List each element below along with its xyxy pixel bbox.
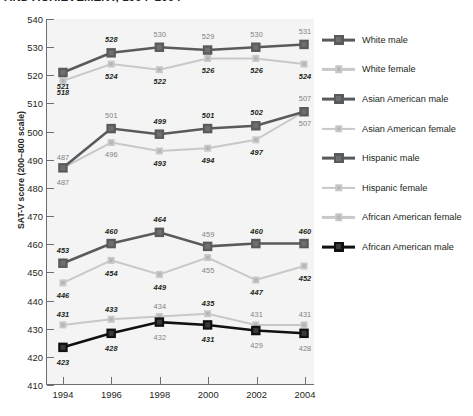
legend-item-label: White female [362, 64, 416, 74]
data-point-marker [204, 55, 211, 62]
data-point-value: 454 [105, 268, 118, 277]
data-point-value: 494 [202, 156, 215, 165]
data-point-value: 431 [57, 310, 70, 319]
legend-swatch-icon [322, 181, 355, 195]
data-point-marker [106, 124, 115, 133]
legend-item-label: White male [362, 35, 408, 45]
data-point-marker [156, 148, 163, 155]
legend-item-african-american-female[interactable]: African American female [322, 203, 472, 233]
data-point-marker [58, 343, 67, 352]
legend-swatch-icon [322, 122, 355, 136]
data-point-marker [299, 329, 308, 338]
data-point-marker [299, 107, 308, 116]
legend-item-label: Asian American female [362, 124, 456, 134]
series-lines [47, 19, 314, 384]
data-point-marker [301, 321, 308, 328]
data-point-value: 501 [105, 111, 118, 120]
data-point-marker [252, 136, 259, 143]
x-axis-label: 2004 [295, 389, 316, 400]
series-line [63, 258, 304, 283]
plot-area: 4104204304404504604704804905005105205305… [46, 19, 314, 385]
data-point-value: 518 [57, 88, 70, 97]
data-point-marker [108, 61, 115, 68]
series-line [63, 58, 304, 80]
data-point-value: 531 [299, 26, 312, 35]
data-point-value: 434 [153, 301, 166, 310]
data-point-value: 496 [105, 150, 118, 159]
chart-figure: AND ACHIEVEMENT, 1994–2004 SAT-V score (… [0, 0, 473, 416]
data-point-value: 529 [202, 32, 215, 41]
data-point-marker [59, 321, 66, 328]
data-point-marker [252, 55, 259, 62]
y-axis-label: 470 [27, 211, 43, 222]
data-point-value: 446 [57, 291, 70, 300]
data-point-value: 530 [153, 29, 166, 38]
data-point-marker [106, 48, 115, 57]
data-point-value: 530 [250, 29, 263, 38]
data-point-marker [58, 68, 67, 77]
data-point-value: 453 [57, 246, 70, 255]
data-point-marker [299, 239, 308, 248]
data-point-value: 464 [153, 215, 166, 224]
legend-item-label: African American female [362, 212, 462, 222]
legend-item-hispanic-female[interactable]: Hispanic female [322, 173, 472, 203]
data-point-value: 428 [299, 343, 312, 352]
data-point-value: 487 [57, 152, 70, 161]
legend-swatch-icon [322, 210, 355, 224]
legend-item-african-american-male[interactable]: African American male [322, 232, 472, 262]
data-point-value: 497 [250, 147, 263, 156]
data-point-value: 507 [299, 94, 312, 103]
data-point-marker [251, 42, 260, 51]
data-point-marker [108, 139, 115, 146]
y-axis-label: 460 [27, 239, 43, 250]
data-point-marker [58, 163, 67, 172]
data-point-marker [156, 66, 163, 73]
x-axis-label: 2002 [246, 389, 267, 400]
x-axis-label: 1994 [53, 389, 74, 400]
data-point-marker [204, 145, 211, 152]
legend-item-asian-american-female[interactable]: Asian American female [322, 114, 472, 144]
legend-item-hispanic-male[interactable]: Hispanic male [322, 143, 472, 173]
legend-item-white-female[interactable]: White female [322, 55, 472, 85]
data-point-marker [106, 329, 115, 338]
data-point-value: 524 [299, 71, 312, 80]
y-axis-label: 530 [27, 42, 43, 53]
data-point-marker [108, 257, 115, 264]
data-point-value: 431 [299, 310, 312, 319]
data-point-marker [59, 279, 66, 286]
data-point-marker [203, 45, 212, 54]
series-line [63, 232, 304, 263]
data-point-marker [301, 263, 308, 270]
y-axis-label: 510 [27, 98, 43, 109]
page-title: AND ACHIEVEMENT, 1994–2004 [4, 0, 304, 4]
y-axis-label: 410 [27, 380, 43, 391]
data-point-marker [251, 121, 260, 130]
x-axis-label: 2000 [198, 389, 219, 400]
data-point-marker [155, 129, 164, 138]
y-axis-title: SAT-V score (200–800 scale) [16, 100, 26, 240]
data-point-value: 507 [299, 119, 312, 128]
data-point-marker [252, 277, 259, 284]
legend-item-asian-american-male[interactable]: Asian American male [322, 84, 472, 114]
data-point-value: 449 [153, 282, 166, 291]
data-point-marker [203, 242, 212, 251]
data-point-marker [204, 310, 211, 317]
data-point-value: 487 [57, 177, 70, 186]
data-point-value: 528 [105, 35, 118, 44]
data-point-value: 431 [202, 335, 215, 344]
data-point-value: 459 [202, 229, 215, 238]
data-point-marker [251, 239, 260, 248]
data-point-marker [106, 239, 115, 248]
data-point-marker [156, 271, 163, 278]
data-point-value: 522 [153, 77, 166, 86]
legend-item-label: Hispanic male [362, 153, 420, 163]
legend-item-white-male[interactable]: White male [322, 25, 472, 55]
data-point-marker [203, 124, 212, 133]
legend-swatch-icon [322, 33, 355, 47]
data-point-value: 429 [250, 341, 263, 350]
data-point-value: 524 [105, 71, 118, 80]
data-point-value: 431 [250, 310, 263, 319]
data-point-value: 435 [202, 299, 215, 308]
data-point-value: 452 [299, 274, 312, 283]
legend-item-label: Asian American male [362, 94, 448, 104]
